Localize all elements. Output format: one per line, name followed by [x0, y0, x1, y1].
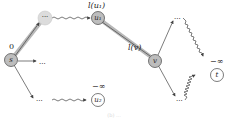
- node-u2-value: −∞: [92, 82, 105, 91]
- node-v-label: v: [153, 57, 157, 65]
- node-u1: u₁: [92, 12, 105, 25]
- ellipsis-bottom-right: ···: [176, 97, 183, 105]
- wavy-edge-bottomright-t: [184, 75, 195, 100]
- edge-u1-v: [102, 22, 150, 56]
- node-t-label: t: [216, 71, 219, 79]
- highlighted-path: [11, 18, 155, 60]
- node-u1-label: u₁: [94, 14, 102, 22]
- node-v: v: [149, 55, 162, 68]
- wavy-edge-topright-t: [183, 18, 203, 56]
- graph-diagram: ··· ··· ··· ··· ··· s 0 u₁ l(u₁) v l(v) …: [0, 0, 229, 119]
- node-top-dots-label: ···: [42, 13, 49, 21]
- node-top-dots: ···: [38, 11, 52, 25]
- node-u2: u₂: [92, 94, 105, 107]
- edge-s-bottomdots: [14, 65, 33, 98]
- ellipsis-bottom-left: ···: [36, 97, 43, 105]
- caption: (b) ...: [107, 112, 121, 118]
- node-s-label: s: [9, 56, 13, 64]
- wavy-edge-bottomdots-u2: [52, 99, 86, 101]
- node-t: t: [211, 69, 224, 82]
- edge-v-topright: [158, 21, 173, 55]
- node-s-value: 0: [9, 42, 14, 51]
- edges: [14, 17, 203, 101]
- node-u1-value: l(u₁): [88, 1, 105, 10]
- node-v-value: l(v): [128, 43, 141, 52]
- ellipsis-mid: ···: [39, 60, 46, 68]
- edge-s-topdots: [15, 23, 39, 56]
- ellipsis-top-right: ···: [174, 15, 181, 23]
- node-u2-label: u₂: [94, 96, 102, 104]
- wavy-edge-topdots-u1: [52, 17, 90, 19]
- node-s: s: [5, 54, 18, 67]
- node-t-value: −∞: [210, 57, 223, 66]
- edge-v-bottomright: [158, 65, 175, 96]
